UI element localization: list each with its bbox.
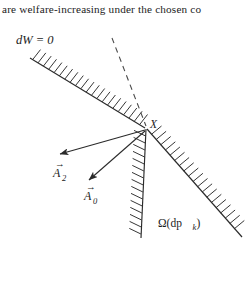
diagram-svg: dW = 0 X → A 2 → A 0 Ω(dp k ) [0, 22, 248, 283]
diagram-figure: dW = 0 X → A 2 → A 0 Ω(dp k ) [0, 22, 248, 283]
dw-zero-constraint-line [30, 50, 148, 128]
label-a2-base: A [52, 166, 61, 180]
figure-page: are welfare-increasing under the chosen … [0, 0, 248, 283]
label-dw-zero: dW = 0 [16, 33, 54, 47]
cone-left-edge [129, 129, 146, 238]
cone-right-hatching [152, 126, 245, 229]
label-a2-subscript: 2 [62, 173, 67, 183]
label-a0-base: A [83, 189, 92, 203]
label-a0-subscript: 0 [93, 196, 98, 206]
label-vertex-x: X [149, 118, 158, 130]
label-arrow-a0: → A 0 [83, 182, 98, 206]
label-omega-close: ) [197, 217, 201, 230]
label-arrow-a2: → A 2 [52, 159, 67, 183]
dashed-reference-line [112, 38, 146, 126]
label-cone-omega: Ω(dp k ) [158, 217, 201, 232]
dw-zero-hatching [33, 50, 148, 125]
body-text-line: are welfare-increasing under the chosen … [2, 2, 248, 16]
label-omega-open: Ω(dp [158, 217, 182, 230]
